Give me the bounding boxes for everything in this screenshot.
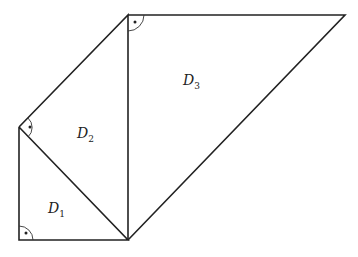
triangle-d3 bbox=[128, 15, 345, 240]
triangle-d1 bbox=[19, 127, 128, 240]
label-d3: D3 bbox=[183, 72, 200, 91]
label-d1-main: D bbox=[48, 200, 59, 216]
label-d2-main: D bbox=[77, 125, 88, 141]
label-d1-sub: 1 bbox=[59, 209, 65, 219]
label-d3-sub: 3 bbox=[194, 81, 200, 91]
label-d1: D1 bbox=[48, 200, 65, 219]
label-d2: D2 bbox=[77, 125, 94, 144]
right-angle-dot-d1 bbox=[25, 232, 28, 235]
label-d2-sub: 2 bbox=[88, 134, 94, 144]
label-d3-main: D bbox=[183, 72, 194, 88]
triangle-d2 bbox=[19, 15, 128, 240]
right-angle-dot-d3 bbox=[134, 21, 137, 24]
right-angle-dot-d2 bbox=[29, 126, 32, 129]
